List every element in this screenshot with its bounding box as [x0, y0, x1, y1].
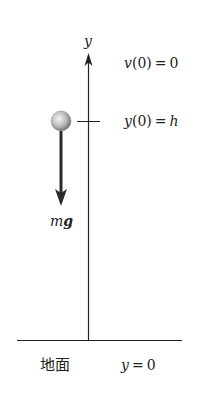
- y-axis-label: y: [83, 33, 93, 49]
- ground-label: 地面: [40, 356, 70, 374]
- gravity-vector-symbol: g: [63, 213, 73, 229]
- mass-symbol: m: [50, 213, 63, 229]
- initial-velocity-label: v(0)=0: [124, 55, 178, 71]
- y-axis: y: [83, 33, 93, 340]
- force-label: mg: [50, 213, 73, 229]
- initial-position-label: y(0)=h: [123, 113, 179, 129]
- free-fall-diagram: y mg v(0)=0 y(0)=h 地面 y=0: [0, 0, 208, 405]
- ball: [51, 111, 71, 131]
- ground-level-label: y=0: [120, 357, 156, 373]
- gravity-force-arrow: [55, 131, 67, 206]
